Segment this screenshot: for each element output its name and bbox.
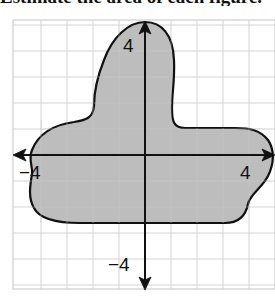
y-axis-negative-label: −4 xyxy=(108,255,130,274)
x-axis-positive-label: 4 xyxy=(240,163,251,182)
coordinate-graph xyxy=(0,0,275,296)
y-axis-positive-label: 4 xyxy=(123,36,134,55)
x-axis-negative-label: −4 xyxy=(19,163,41,182)
